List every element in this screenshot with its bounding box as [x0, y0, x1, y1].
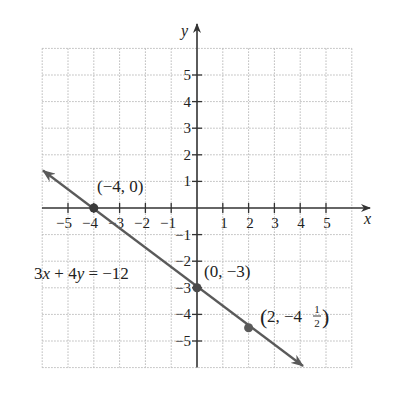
x-tick-label: 2 — [246, 215, 254, 231]
y-tick-label: −4 — [175, 306, 191, 322]
point-0-neg3 — [193, 283, 202, 292]
x-tick-label: −2 — [134, 215, 150, 231]
y-tick-label: −3 — [175, 280, 191, 296]
y-tick-label: 2 — [184, 147, 192, 163]
y-tick-label: 1 — [184, 173, 192, 189]
point-neg4-0 — [89, 204, 98, 213]
point-label-c: ( 2, −4 1 2 ) — [260, 303, 329, 329]
fraction-denominator: 2 — [314, 317, 320, 329]
point-label-b: (0, −3) — [204, 262, 250, 281]
y-tick-label: −1 — [175, 227, 191, 243]
x-axis-title: x — [363, 210, 371, 227]
paren-close: ) — [322, 304, 329, 329]
y-tick-label: −2 — [175, 253, 191, 269]
y-tick-label: 5 — [184, 67, 192, 83]
x-tick-label: 5 — [323, 215, 331, 231]
equation-label: 3x + 4y = −12 — [34, 264, 129, 283]
y-tick-label: 3 — [184, 120, 192, 136]
x-tick-label: 4 — [297, 215, 305, 231]
point-c-main: 2, −4 — [267, 307, 303, 326]
point-label-a: (−4, 0) — [97, 177, 143, 196]
x-tick-label: 1 — [220, 215, 228, 231]
y-tick-label: −5 — [175, 333, 191, 349]
coordinate-plane: −5 −4 −3 −2 −1 1 2 3 4 5 5 4 3 2 1 −1 −2… — [0, 0, 400, 400]
x-tick-label: −5 — [56, 215, 72, 231]
fraction-numerator: 1 — [314, 303, 320, 315]
x-tick-label: −1 — [160, 215, 176, 231]
x-tick-label: 3 — [271, 215, 279, 231]
y-tick-label: 4 — [184, 94, 192, 110]
y-axis-title: y — [179, 22, 189, 40]
equation-line — [118, 227, 303, 366]
point-2-neg4half — [244, 323, 253, 332]
x-tick-label: −4 — [82, 215, 98, 231]
x-tick-labels: −5 −4 −3 −2 −1 1 2 3 4 5 — [56, 215, 331, 231]
